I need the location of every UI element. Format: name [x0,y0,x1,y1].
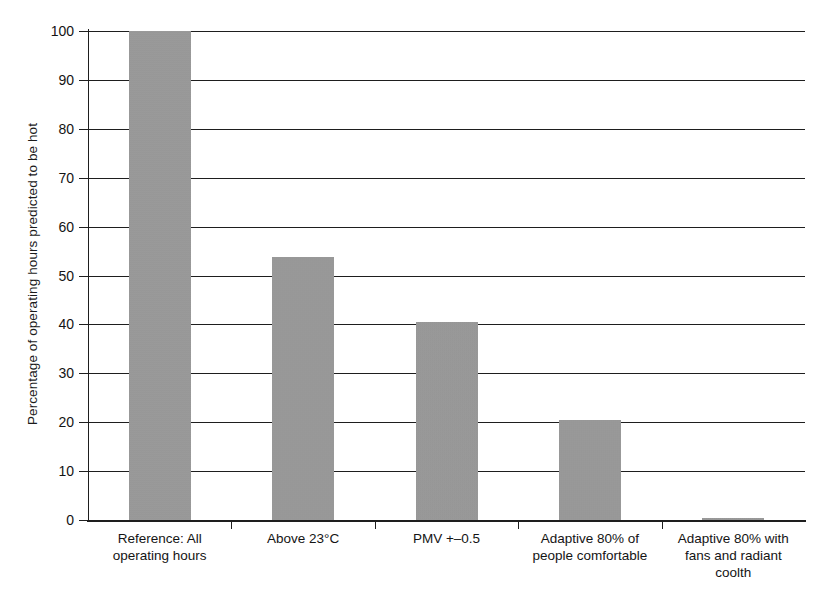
y-axis-tick-mark [79,129,88,130]
y-axis-tick-mark [79,31,88,32]
y-axis-tick-label: 50 [10,269,74,283]
bar [702,518,764,521]
x-axis-category-label-line: PMV +–0.5 [375,530,518,547]
x-axis-category-label-line: fans and radiant [662,547,805,564]
y-axis-tick-mark [79,373,88,374]
bar [272,257,334,520]
x-axis-tick-mark [375,520,376,529]
y-axis-tick-label: 30 [10,366,74,380]
x-axis-category-label-line: Above 23°C [231,530,374,547]
x-axis-tick-mark [662,520,663,529]
x-axis-tick-mark [231,520,232,529]
bar-chart-figure: Percentage of operating hours predicted … [0,0,819,598]
y-axis-tick-label: 90 [10,73,74,87]
bar [559,420,621,520]
y-axis-tick-mark [79,276,88,277]
y-axis-tick-mark [79,227,88,228]
x-axis-category-label-line: coolth [662,564,805,581]
x-axis-category-label-line: Reference: All [88,530,231,547]
y-axis-tick-label: 80 [10,122,74,136]
y-axis-tick-mark [79,520,88,521]
y-axis-tick-label: 40 [10,317,74,331]
x-axis-category-label: Reference: Alloperating hours [88,530,231,564]
y-axis-tick-mark [79,80,88,81]
x-axis-category-labels: Reference: Alloperating hoursAbove 23°CP… [88,530,805,596]
bars-group [88,31,805,520]
y-axis-tick-label: 20 [10,415,74,429]
y-axis-tick-label: 70 [10,171,74,185]
x-axis-category-label: Adaptive 80% ofpeople comfortable [518,530,661,564]
x-axis-spine [87,520,806,522]
y-axis-tick-label: 60 [10,220,74,234]
x-axis-category-label-line: Adaptive 80% of [518,530,661,547]
y-axis-tick-mark [79,324,88,325]
y-axis-tick-mark [79,471,88,472]
y-axis-tick-label: 100 [10,24,74,38]
x-axis-category-label: PMV +–0.5 [375,530,518,547]
x-axis-category-label-line: operating hours [88,547,231,564]
plot-area [88,31,805,520]
x-axis-category-label-line: Adaptive 80% with [662,530,805,547]
x-axis-tick-mark [518,520,519,529]
y-axis-tick-label: 10 [10,464,74,478]
y-axis-tick-label: 0 [10,513,74,527]
x-axis-category-label: Above 23°C [231,530,374,547]
x-axis-category-label-line: people comfortable [518,547,661,564]
y-axis-tick-mark [79,422,88,423]
bar [416,322,478,520]
x-axis-category-label: Adaptive 80% withfans and radiantcoolth [662,530,805,581]
y-axis-tick-mark [79,178,88,179]
bar [129,31,191,520]
y-axis-tick-labels: 1009080706050403020100 [0,0,74,598]
